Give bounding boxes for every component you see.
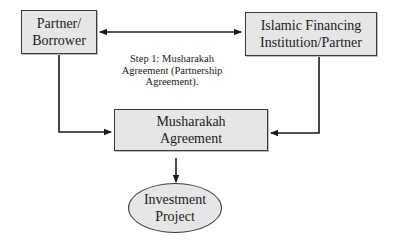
islamic-financing-box: Islamic Financing Institution/Partner <box>245 12 377 56</box>
musharakah-diagram: Partner/ Borrower Islamic Financing Inst… <box>0 0 397 243</box>
musharakah-agreement-box: Musharakah Agreement <box>114 109 268 151</box>
musharakah-line-2: Agreement <box>160 130 222 147</box>
left-elbow-arrow <box>59 54 111 132</box>
partner-borrower-line-2: Borrower <box>32 32 86 49</box>
partner-borrower-box: Partner/ Borrower <box>21 10 97 54</box>
step-label-line-3: Agreement). <box>110 76 234 88</box>
investment-project-line-1: Investment <box>144 191 206 208</box>
islamic-financing-line-1: Islamic Financing <box>261 17 362 34</box>
islamic-financing-line-2: Institution/Partner <box>260 34 362 51</box>
musharakah-line-1: Musharakah <box>156 113 225 130</box>
investment-project-line-2: Project <box>155 208 195 225</box>
step-1-label: Step 1: Musharakah Agreement (Partnershi… <box>110 53 234 88</box>
partner-borrower-line-1: Partner/ <box>37 15 81 32</box>
step-label-line-1: Step 1: Musharakah <box>110 53 234 65</box>
investment-project-ellipse: Investment Project <box>128 183 222 233</box>
right-elbow-arrow <box>271 56 319 133</box>
step-label-line-2: Agreement (Partnership <box>110 65 234 77</box>
